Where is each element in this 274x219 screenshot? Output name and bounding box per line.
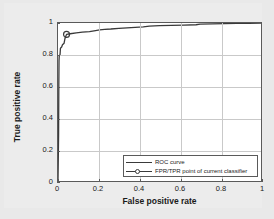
roc-figure: True positive rate False positive rate R… [0,0,274,219]
legend-label-roc-curve: ROC curve [155,158,185,167]
gridline-horizontal [58,151,261,152]
x-axis-tick [262,179,263,182]
legend-line-icon [126,158,152,167]
y-axis-tick [57,55,60,56]
x-axis-tick [222,179,223,182]
x-tick-label: 0.8 [216,184,226,193]
y-axis-tick [57,151,60,152]
gridline-horizontal [58,55,261,56]
legend-line-marker-icon [126,167,152,176]
x-tick-label: 0.6 [175,184,185,193]
legend-item-current-point: FPR/TPR point of current classifier [126,167,247,176]
x-tick-label: 0.4 [134,184,144,193]
x-tick-label: 1 [260,184,264,193]
y-axis-tick [57,119,60,120]
x-axis-tick [99,179,100,182]
y-axis-tick [57,182,60,183]
x-axis-label: False positive rate [57,196,262,206]
x-tick-label: 0 [55,184,59,193]
gridline-horizontal [58,87,261,88]
x-axis-tick [181,179,182,182]
x-tick-label: 0.2 [93,184,103,193]
y-axis-label: True positive rate [12,52,22,162]
legend-item-roc-curve: ROC curve [126,158,185,167]
y-axis-tick [57,87,60,88]
legend-label-current-point: FPR/TPR point of current classifier [155,167,247,176]
gridline-vertical [99,23,100,181]
y-axis-tick [57,23,60,24]
x-axis-tick [140,179,141,182]
gridline-horizontal [58,119,261,120]
chart-legend: ROC curve FPR/TPR point of current class… [123,155,258,177]
